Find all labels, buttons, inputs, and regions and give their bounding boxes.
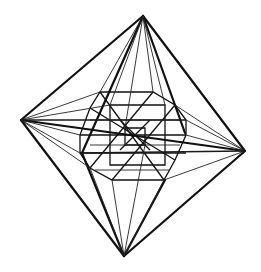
octahedron-wireframe [0,0,261,272]
outer-octahedron [21,16,245,256]
polyhedron-figure [0,0,261,272]
